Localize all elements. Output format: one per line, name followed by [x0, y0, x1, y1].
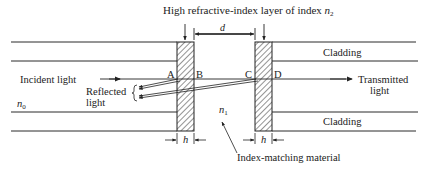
index-matching-material-label: Index-matching material	[237, 152, 341, 163]
transmitted-light-label-line1: Transmitted	[358, 74, 409, 85]
index-matching-leader	[222, 122, 237, 153]
gap-d-label: d	[220, 22, 226, 33]
reflected-brace	[132, 85, 137, 101]
point-d-label: D	[274, 69, 282, 80]
point-c-label: C	[245, 69, 252, 80]
reflected-light-label-line2: light	[86, 97, 105, 108]
h-left-label: h	[183, 134, 188, 145]
point-a-label: A	[167, 69, 175, 80]
n0-label: n0	[17, 98, 26, 111]
reflected-rays	[139, 79, 258, 98]
n1-label: n1	[219, 104, 228, 117]
cladding-bottom-label: Cladding	[323, 116, 362, 127]
left-high-index-layer	[177, 42, 194, 131]
point-b-label: B	[196, 69, 203, 80]
h-right-label: h	[261, 134, 266, 145]
fiber-filter-diagram: High refractive-index layer of index n2 …	[0, 0, 425, 176]
reflected-light-label-line1: Reflected	[86, 86, 127, 97]
incident-light-label: Incident light	[20, 74, 76, 85]
high-index-layer-label: High refractive-index layer of index n2	[163, 4, 334, 18]
cladding-top-label: Cladding	[323, 47, 362, 58]
right-high-index-layer	[255, 42, 272, 131]
transmitted-light-label-line2: light	[370, 85, 389, 96]
